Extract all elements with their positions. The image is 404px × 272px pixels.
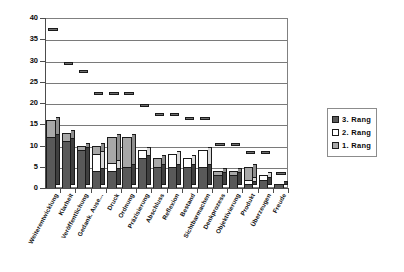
legend-swatch-icon [332,142,339,149]
y-axis-tick-label: 30 [0,57,38,65]
y-axis-tick-label: 15 [0,120,38,128]
bar-top-face [48,28,57,31]
y-axis-tick-label: 20 [0,99,38,107]
legend-item[interactable]: 2. Rang [332,126,371,139]
bar-top-face [200,117,209,120]
bar-top-face [94,92,103,95]
bar-segment-3-rang[interactable] [46,137,55,188]
legend: 3. Rang2. Rang1. Rang [327,108,377,157]
bar-segment-side [56,134,60,185]
bar-top-face [261,151,270,154]
y-axis-tick-label: 5 [0,163,38,171]
legend-label: 2. Rang [342,128,371,137]
legend-label: 3. Rang [342,115,371,124]
bar-top-face [246,151,255,154]
legend-item[interactable]: 3. Rang [332,113,371,126]
bar-top-face [79,70,88,73]
bar-top-face [215,143,224,146]
bar-top-face [170,113,179,116]
x-axis-category-label: Druck [105,192,120,211]
y-axis-tick-label: 0 [0,184,38,192]
y-axis-tick-label: 35 [0,35,38,43]
bar-top-face [155,113,164,116]
y-axis-tick-label: 40 [0,14,38,22]
x-axis-category-label: Weiterentwicklung [26,192,59,245]
bar-top-face [124,92,133,95]
legend-swatch-icon [332,116,339,123]
legend-item[interactable]: 1. Rang [332,139,371,152]
y-axis-tick-label: 10 [0,142,38,150]
bar-top-face [231,143,240,146]
bar-top-face [185,117,194,120]
chart-container: 4035302520151050 WeiterentwicklungKlarhe… [0,0,404,272]
legend-label: 1. Rang [342,141,371,150]
bar-top-face [140,104,149,107]
bar-top-face [64,62,73,65]
y-axis-tick-label: 25 [0,78,38,86]
bar-top-face [109,92,118,95]
legend-swatch-icon [332,129,339,136]
x-axis-category-labels: WeiterentwicklungKlarheitVeröffentlichun… [45,192,295,272]
x-axis-category-label: Freude [271,192,287,214]
